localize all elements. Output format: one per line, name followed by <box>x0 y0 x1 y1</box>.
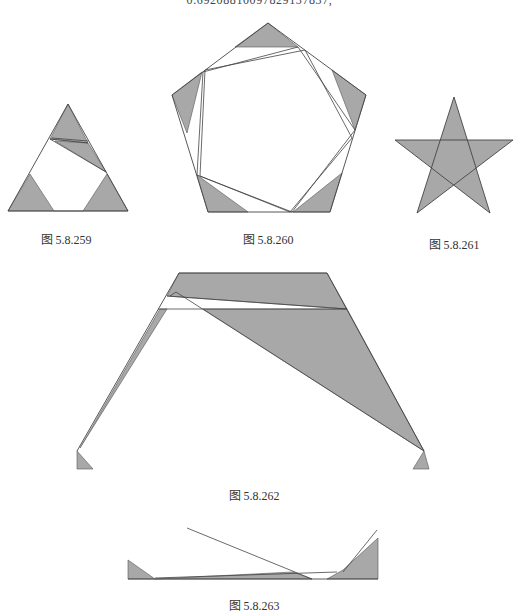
shaded-region <box>128 560 155 579</box>
shaded-region <box>413 451 429 469</box>
shaded-region <box>77 451 93 469</box>
caption-figure-261: 图 5.8.261 <box>429 235 480 253</box>
shaded-region <box>235 23 298 47</box>
shaded-region <box>83 174 128 211</box>
shaded-region <box>172 72 202 133</box>
figure-260-pentagon <box>172 23 366 212</box>
inner-line <box>187 528 312 579</box>
pentagram <box>395 97 513 213</box>
caption-figure-262: 图 5.8.262 <box>229 486 280 504</box>
shaded-region <box>197 175 248 212</box>
caption-figure-259: 图 5.8.259 <box>41 230 92 248</box>
trapezoid-left-edge <box>77 273 179 451</box>
figure-263-strip <box>128 528 378 579</box>
figure-261-star <box>395 97 513 213</box>
shaded-region <box>80 309 167 448</box>
caption-figure-263: 图 5.8.263 <box>229 596 280 614</box>
figure-259-triangle <box>8 104 128 211</box>
shaded-region <box>50 104 88 143</box>
shaded-region <box>327 538 378 579</box>
figure-262-trapezoid <box>77 273 429 469</box>
caption-figure-260: 图 5.8.260 <box>243 230 294 248</box>
shaded-region <box>8 174 54 211</box>
